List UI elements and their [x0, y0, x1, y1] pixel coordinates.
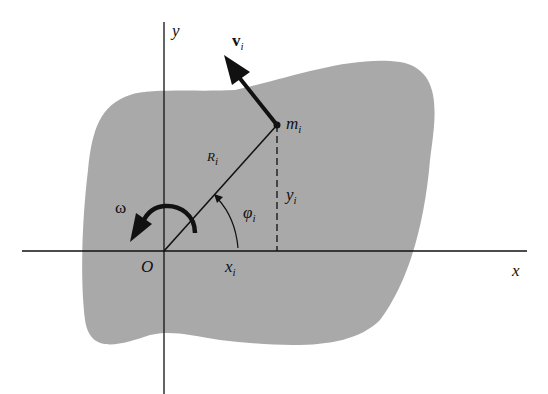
origin-label: O: [141, 258, 153, 275]
omega-label: ω: [115, 199, 126, 216]
mass-label: mi: [286, 115, 301, 135]
y-coordinate-label: yi: [286, 186, 297, 206]
y-axis-label: y: [172, 22, 180, 39]
velocity-arrowhead-icon: [224, 55, 250, 85]
x-axis-label: x: [512, 262, 520, 279]
velocity-label: vi: [232, 32, 244, 52]
diagram: y x O vi mi Ri yi xi φi ω: [0, 0, 548, 394]
radius-label: Ri: [207, 150, 218, 167]
x-coordinate-label: xi: [225, 258, 236, 278]
diagram-canvas: [0, 0, 548, 394]
angle-label: φi: [243, 204, 255, 224]
